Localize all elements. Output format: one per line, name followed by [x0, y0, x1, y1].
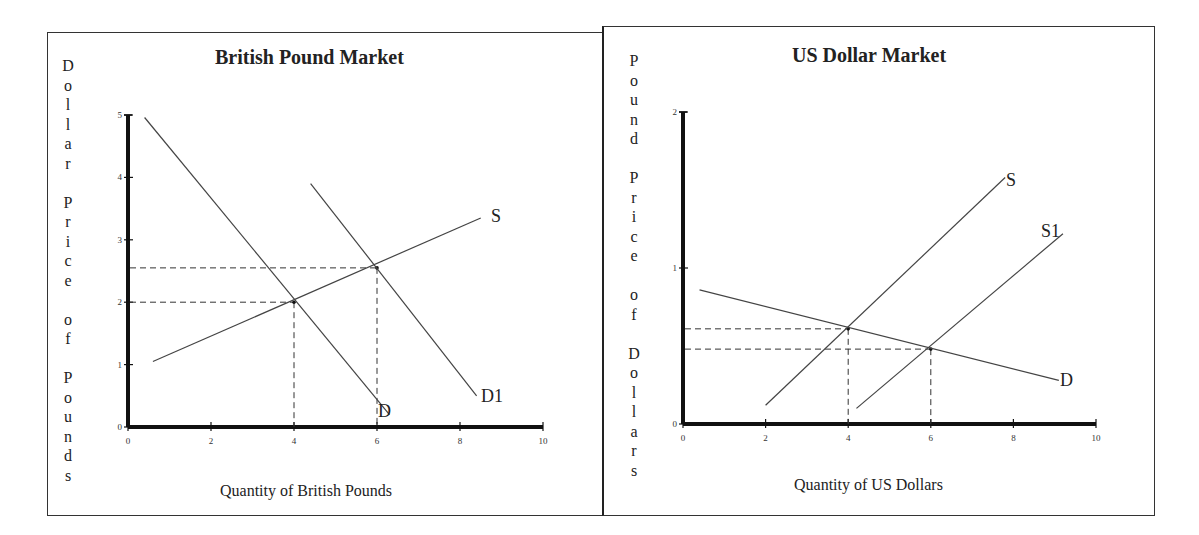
x-tick-label: 2 [763, 433, 768, 443]
curve-label-s1: S1 [1041, 221, 1060, 241]
y-tick-label: 0 [673, 419, 678, 429]
curve-d [700, 290, 1059, 380]
curve-s [766, 178, 1006, 406]
x-tick-label: 8 [1011, 433, 1016, 443]
x-tick-label: 8 [458, 436, 463, 446]
x-tick-label: 4 [846, 433, 851, 443]
y-tick-label: 2 [673, 107, 678, 117]
curve-s [153, 218, 481, 362]
y-tick-label: 2 [118, 297, 123, 307]
us-dollar-chart: 0246810012DSS1 [673, 107, 1102, 443]
curve-label-d: D [378, 401, 391, 421]
x-tick-label: 2 [209, 436, 214, 446]
y-tick-label: 5 [118, 110, 123, 120]
curve-label-d1: D1 [481, 386, 503, 406]
curve-label-s: S [1006, 170, 1016, 190]
x-tick-label: 0 [681, 433, 686, 443]
x-tick-label: 10 [1092, 433, 1102, 443]
charts-canvas: 0246810012345DD1S 0246810012DSS1 [0, 0, 1199, 535]
x-tick-label: 10 [539, 436, 549, 446]
x-tick-label: 6 [929, 433, 934, 443]
y-tick-label: 3 [118, 235, 123, 245]
curve-s1 [856, 234, 1062, 409]
x-tick-label: 4 [292, 436, 297, 446]
x-tick-label: 0 [126, 436, 131, 446]
y-tick-label: 1 [118, 360, 123, 370]
curve-label-s: S [491, 206, 501, 226]
y-tick-label: 1 [673, 263, 678, 273]
y-tick-label: 4 [118, 172, 123, 182]
curve-d1 [311, 184, 477, 396]
british-pound-chart: 0246810012345DD1S [118, 110, 549, 446]
x-tick-label: 6 [375, 436, 380, 446]
y-tick-label: 0 [118, 422, 123, 432]
curve-d [145, 117, 390, 414]
curve-label-d: D [1060, 370, 1073, 390]
